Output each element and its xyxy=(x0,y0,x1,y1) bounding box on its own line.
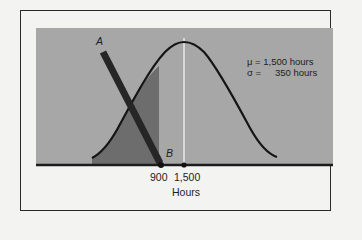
tick-label-1500: 1,500 xyxy=(174,172,200,183)
tick-dot-1500 xyxy=(181,162,186,167)
label-b: B xyxy=(166,148,173,159)
mean-legend: μ = 1,500 hours xyxy=(247,57,313,67)
sigma-legend-value: 350 hours xyxy=(275,68,317,78)
tick-label-900: 900 xyxy=(150,172,168,183)
tick-dot-900 xyxy=(158,162,164,168)
label-a: A xyxy=(96,36,103,47)
x-axis-label: Hours xyxy=(172,187,200,198)
sigma-legend-symbol: σ = xyxy=(247,68,261,78)
